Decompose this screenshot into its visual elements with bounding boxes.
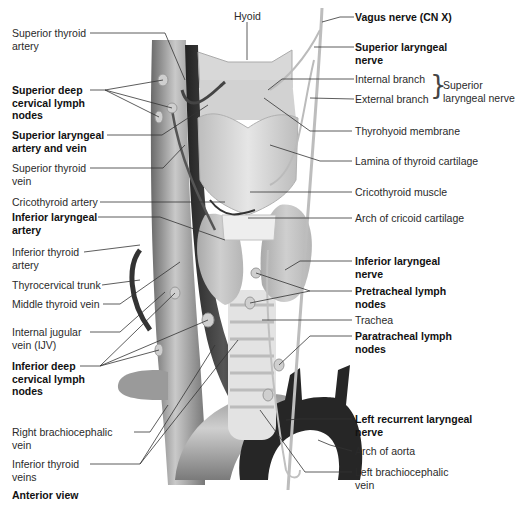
label-external-branch: External branch [355, 93, 429, 106]
label-superior-thyroid-vein: Superior thyroid vein [12, 162, 86, 187]
thyroid-cartilage-shape [198, 114, 298, 215]
cricoid-shape [222, 215, 276, 240]
label-trachea: Trachea [355, 314, 393, 327]
label-cricothyroid-muscle: Cricothyroid muscle [355, 186, 447, 199]
label-superior-thyroid-artery: Superior thyroid artery [12, 27, 86, 52]
label-inferior-thyroid-artery: Inferior thyroid artery [12, 246, 79, 271]
label-inferior-laryngeal-artery: Inferior laryngeal artery [12, 211, 97, 236]
label-vagus-nerve: Vagus nerve (CN X) [355, 11, 452, 24]
label-superior-deep-cervical-lymph-nodes: Superior deep cervical lymph nodes [12, 84, 85, 122]
label-hyoid: Hyoid [234, 10, 261, 23]
label-right-brachiocephalic-vein: Right brachiocephalic vein [12, 426, 112, 451]
label-thyrohyoid-membrane: Thyrohyoid membrane [355, 125, 460, 138]
label-arch-cricoid-cartilage: Arch of cricoid cartilage [355, 212, 464, 225]
label-anterior-view: Anterior view [12, 489, 79, 502]
label-arch-of-aorta: Arch of aorta [355, 445, 415, 458]
label-superior-laryngeal-nerve: Superior laryngeal nerve [355, 41, 447, 66]
label-inferior-thyroid-veins: Inferior thyroid veins [12, 458, 79, 483]
label-pretracheal-lymph-nodes: Pretracheal lymph nodes [355, 285, 446, 310]
label-thyrocervical-trunk: Thyrocervical trunk [12, 279, 101, 292]
label-inferior-laryngeal-nerve: Inferior laryngeal nerve [355, 255, 440, 280]
thyrocervical-trunk-shape [132, 250, 150, 330]
label-superior-laryngeal-nerve-group: Superior laryngeal nerve [443, 79, 515, 104]
label-lamina-thyroid-cartilage: Lamina of thyroid cartilage [355, 155, 478, 168]
label-paratracheal-lymph-nodes: Paratracheal lymph nodes [355, 330, 452, 355]
label-left-recurrent-laryngeal-nerve: Left recurrent laryngeal nerve [355, 413, 472, 438]
paratracheal-node-2 [263, 389, 273, 401]
subclavian-stub-shape [118, 370, 168, 400]
label-middle-thyroid-vein: Middle thyroid vein [12, 298, 100, 311]
label-inferior-deep-cervical-lymph-nodes: Inferior deep cervical lymph nodes [12, 360, 85, 398]
label-internal-jugular-vein: Internal jugular vein (IJV) [12, 326, 81, 351]
label-cricothyroid-artery: Cricothyroid artery [12, 196, 98, 209]
label-superior-laryngeal-artery-vein: Superior laryngeal artery and vein [12, 129, 104, 154]
label-internal-branch: Internal branch [355, 73, 425, 86]
label-left-brachiocephalic-vein: Left brachiocephalic vein [355, 466, 448, 491]
